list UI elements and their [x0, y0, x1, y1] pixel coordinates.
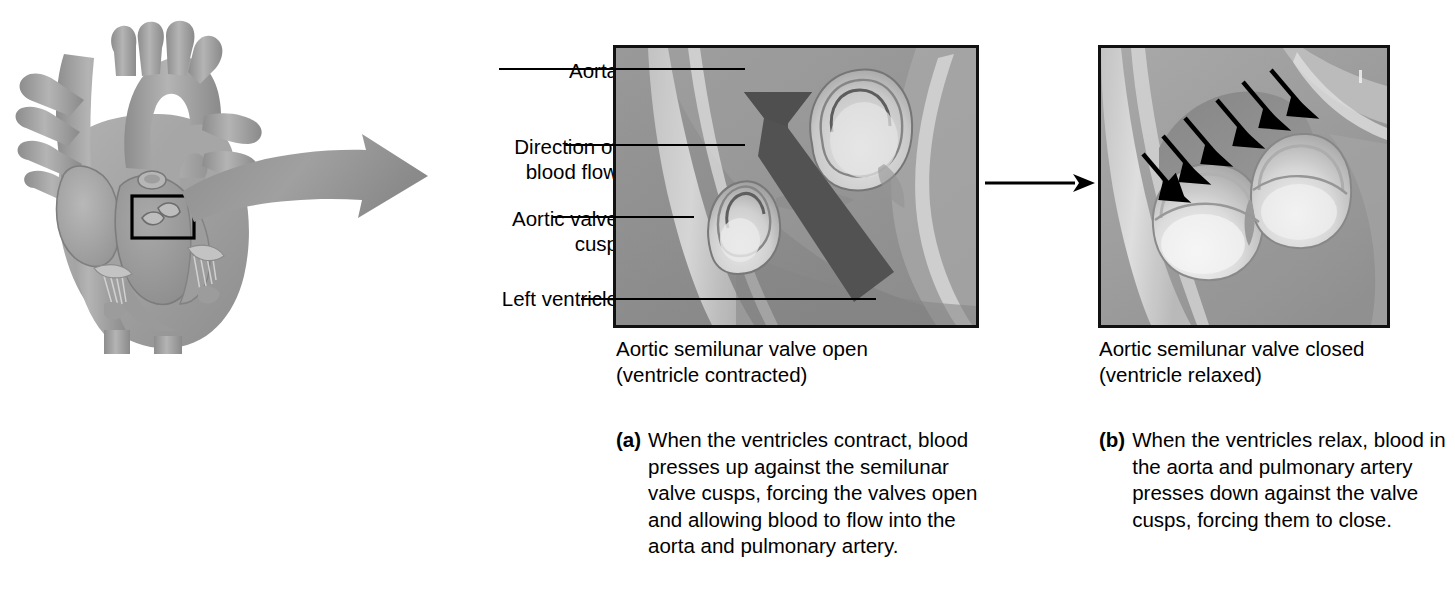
label-direction-line2: blood flow: [514, 159, 618, 184]
panel-sequence-arrow: [985, 168, 1095, 198]
leader-line-cusp: [552, 216, 694, 218]
panel-b-marker: (b): [1099, 427, 1132, 454]
magnification-arrow: [180, 126, 440, 254]
panel-a-title-line1: Aortic semilunar valve open: [616, 336, 996, 362]
leader-line-aorta: [499, 68, 745, 70]
panel-a-caption-body: (a) When the ventricles contract, blood …: [616, 427, 988, 560]
panel-b-title-line2: (ventricle relaxed): [1099, 362, 1449, 388]
panel-a-valve-open: [613, 45, 979, 328]
leader-line-direction: [565, 144, 745, 146]
panel-b-body-text: When the ventricles relax, blood in the …: [1132, 427, 1451, 533]
panel-a-caption-title: Aortic semilunar valve open (ventricle c…: [616, 336, 996, 387]
leader-line-left-ventricle: [581, 298, 876, 300]
figure-root: Aorta Direction of blood flow Aortic val…: [0, 0, 1455, 596]
panel-b-valve-closed: [1098, 45, 1390, 328]
label-aorta: Aorta: [569, 58, 618, 83]
label-direction-line1: Direction of: [514, 134, 618, 159]
panel-a-marker: (a): [616, 427, 648, 454]
leader-label-group: Aorta Direction of blood flow Aortic val…: [418, 48, 618, 318]
label-cusp-line2: cusp: [512, 231, 618, 256]
panel-b-caption-title: Aortic semilunar valve closed (ventricle…: [1099, 336, 1449, 387]
label-aortic-valve-cusp: Aortic valve cusp: [512, 206, 618, 256]
panel-b-title-line1: Aortic semilunar valve closed: [1099, 336, 1449, 362]
label-aorta-line1: Aorta: [569, 58, 618, 83]
panel-a-title-line2: (ventricle contracted): [616, 362, 996, 388]
panel-a-body-text: When the ventricles contract, blood pres…: [648, 427, 988, 560]
panel-b-caption-body: (b) When the ventricles relax, blood in …: [1099, 427, 1451, 533]
label-direction-of-blood-flow: Direction of blood flow: [514, 134, 618, 184]
label-cusp-line1: Aortic valve: [512, 206, 618, 231]
